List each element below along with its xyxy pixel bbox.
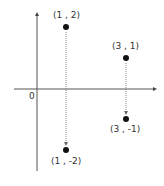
point-1-neg2 — [63, 147, 69, 153]
point-label-1-2: (1 , 2) — [53, 10, 80, 20]
point-label-3-neg1: (3 , -1) — [110, 124, 140, 134]
point-1-2 — [63, 24, 69, 30]
point-label-1-neg2: (1 , -2) — [51, 156, 81, 166]
point-3-neg1 — [123, 116, 129, 122]
point-label-3-1: (3 , 1) — [112, 41, 139, 51]
coordinate-plane: 0 (1 , 2) (1 , -2) (3 , 1) (3 , -1) — [0, 0, 164, 186]
origin-label: 0 — [29, 91, 35, 101]
point-3-1 — [123, 55, 129, 61]
